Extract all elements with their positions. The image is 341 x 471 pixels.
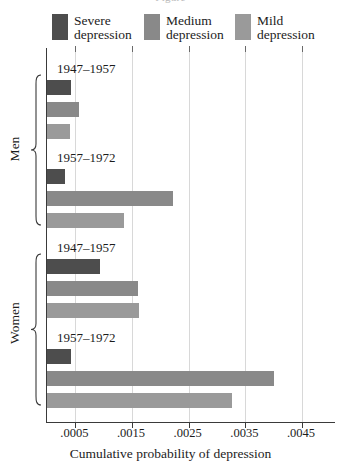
x-tick-label-4: .0045 (287, 426, 315, 441)
gridline-3 (245, 48, 246, 422)
x-tick-label-0: .0005 (60, 426, 88, 441)
tick-top-4 (302, 46, 303, 52)
bar-men-1-medium (47, 191, 173, 206)
group-label-women: Women (7, 314, 23, 344)
group-label-men: Men (7, 134, 23, 164)
bar-men-0-medium (47, 102, 79, 117)
bar-women-0-mild (47, 303, 139, 318)
x-axis-tick-labels: .0005.0015.0025.0035.0045 (46, 426, 335, 442)
gridline-1 (132, 48, 133, 422)
period-label-women-1: 1957–1972 (57, 330, 116, 346)
legend-item-medium: Medium depression (144, 14, 224, 42)
tick-top-1 (132, 46, 133, 52)
depression-bar-chart: Figure Severe depression Medium depressi… (0, 0, 341, 471)
legend-label-medium: Medium depression (166, 14, 224, 42)
x-tick-label-3: .0035 (230, 426, 258, 441)
tick-top-0 (75, 46, 76, 52)
x-tick-label-2: .0025 (174, 426, 202, 441)
legend-swatch-medium (144, 14, 160, 40)
period-label-women-0: 1947–1957 (57, 240, 116, 256)
legend-label-severe: Severe depression (74, 14, 132, 42)
cropped-figure-header-text: Figure (155, 0, 186, 3)
bar-women-1-medium (47, 371, 274, 386)
gridline-4 (302, 48, 303, 422)
group-brace-men (30, 74, 42, 226)
period-label-men-0: 1947–1957 (57, 61, 116, 77)
x-tick-label-1: .0015 (117, 426, 145, 441)
bar-women-0-severe (47, 259, 100, 274)
bar-men-0-severe (47, 80, 71, 95)
x-axis-title: Cumulative probability of depression (0, 446, 341, 462)
plot-area: 1947–19571957–19721947–19571957–1972 (46, 48, 335, 423)
tick-top-3 (245, 46, 246, 52)
bar-men-0-mild (47, 124, 70, 139)
bar-women-1-severe (47, 349, 71, 364)
group-brace-women (30, 253, 42, 406)
bar-men-1-severe (47, 169, 65, 184)
bar-women-0-medium (47, 281, 138, 296)
legend-label-mild: Mild depression (257, 14, 315, 42)
legend-swatch-mild (235, 14, 251, 40)
legend-item-mild: Mild depression (235, 14, 315, 42)
chart-legend: Severe depression Medium depression Mild… (52, 14, 338, 48)
legend-item-severe: Severe depression (52, 14, 132, 42)
cropped-figure-header: Figure (0, 0, 341, 8)
period-label-men-1: 1957–1972 (57, 150, 116, 166)
gridline-2 (189, 48, 190, 422)
bar-men-1-mild (47, 213, 124, 228)
bar-women-1-mild (47, 393, 232, 408)
legend-swatch-severe (52, 14, 68, 40)
tick-top-2 (189, 46, 190, 52)
